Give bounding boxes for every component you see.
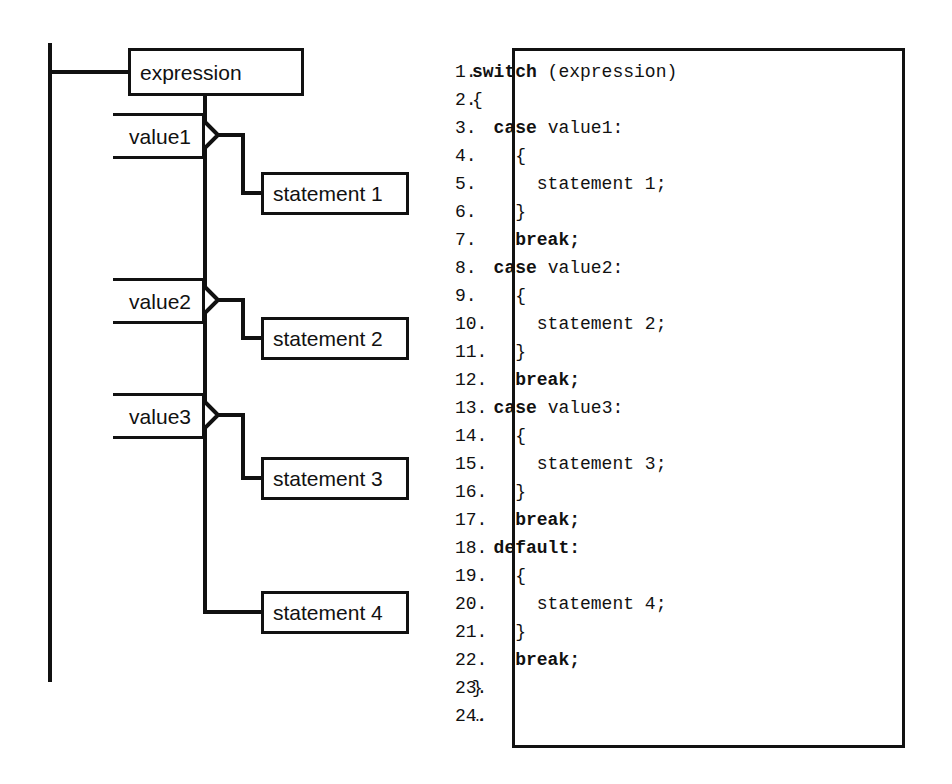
code-source-lines: switch (expression){ case value1: { stat… <box>472 58 677 730</box>
code-indent <box>472 342 515 362</box>
code-text: statement 3; <box>537 454 667 474</box>
code-line: } <box>472 618 677 646</box>
code-indent <box>472 258 494 278</box>
code-keyword: case <box>494 118 537 138</box>
code-text: value1: <box>537 118 623 138</box>
code-keyword: break; <box>515 510 580 530</box>
code-text: … <box>472 706 483 726</box>
statement-box-3: statement 3 <box>261 457 409 500</box>
code-text: value2: <box>537 258 623 278</box>
code-indent <box>472 146 515 166</box>
code-indent <box>472 398 494 418</box>
code-indent <box>472 174 537 194</box>
code-text: } <box>515 342 526 362</box>
code-text: } <box>515 202 526 222</box>
code-indent <box>472 538 494 558</box>
code-line: } <box>472 198 677 226</box>
value-label-1: value1 <box>129 126 191 147</box>
code-keyword: case <box>494 258 537 278</box>
code-indent <box>472 482 515 502</box>
code-indent <box>472 426 515 446</box>
statement-label-1: statement 1 <box>273 183 383 204</box>
code-indent <box>472 594 537 614</box>
code-line: { <box>472 86 677 114</box>
code-keyword: break; <box>515 230 580 250</box>
code-line: statement 2; <box>472 310 677 338</box>
code-indent <box>472 202 515 222</box>
code-indent <box>472 286 515 306</box>
code-text: { <box>515 146 526 166</box>
statement-label-3: statement 3 <box>273 468 383 489</box>
code-text: value3: <box>537 398 623 418</box>
page-root: expression value1 value2 value3 statemen… <box>0 0 952 784</box>
code-text: { <box>515 286 526 306</box>
code-indent <box>472 314 537 334</box>
code-line: break; <box>472 226 677 254</box>
code-line: break; <box>472 506 677 534</box>
code-indent <box>472 622 515 642</box>
statement-box-2: statement 2 <box>261 317 409 360</box>
code-text: statement 2; <box>537 314 667 334</box>
value-label-3: value3 <box>129 406 191 427</box>
code-text: { <box>515 426 526 446</box>
code-line: } <box>472 338 677 366</box>
code-listing: 1.2.3.4.5.6.7.8.9.10.11.12.13.14.15.16.1… <box>455 48 915 750</box>
code-line: statement 1; <box>472 170 677 198</box>
code-line: case value1: <box>472 114 677 142</box>
code-keyword: break; <box>515 370 580 390</box>
code-line: { <box>472 142 677 170</box>
code-keyword: case <box>494 398 537 418</box>
code-indent <box>472 230 515 250</box>
code-text: statement 4; <box>537 594 667 614</box>
statement-label-4: statement 4 <box>273 602 383 623</box>
expression-box: expression <box>128 48 304 96</box>
code-line: { <box>472 422 677 450</box>
value-box-2: value2 <box>113 278 205 324</box>
code-line: { <box>472 282 677 310</box>
code-indent <box>472 370 515 390</box>
code-line: … <box>472 702 677 730</box>
expression-label: expression <box>140 62 242 83</box>
value-box-3: value3 <box>113 393 205 439</box>
statement-box-1: statement 1 <box>261 172 409 215</box>
code-text: } <box>472 678 483 698</box>
code-text: { <box>472 90 483 110</box>
code-line: statement 4; <box>472 590 677 618</box>
code-line: break; <box>472 646 677 674</box>
code-line: } <box>472 674 677 702</box>
code-line: case value2: <box>472 254 677 282</box>
code-indent <box>472 454 537 474</box>
value-box-1: value1 <box>113 113 205 159</box>
statement-box-4: statement 4 <box>261 591 409 634</box>
code-text: } <box>515 622 526 642</box>
code-keyword: break; <box>515 650 580 670</box>
code-line: break; <box>472 366 677 394</box>
code-line: } <box>472 478 677 506</box>
code-line: switch (expression) <box>472 58 677 86</box>
code-text: } <box>515 482 526 502</box>
code-line: case value3: <box>472 394 677 422</box>
code-line: default: <box>472 534 677 562</box>
statement-label-2: statement 2 <box>273 328 383 349</box>
code-indent <box>472 566 515 586</box>
code-line: { <box>472 562 677 590</box>
diagram-connector-lines <box>0 0 460 784</box>
code-text: statement 1; <box>537 174 667 194</box>
code-line: statement 3; <box>472 450 677 478</box>
value-label-2: value2 <box>129 291 191 312</box>
code-keyword: default: <box>494 538 580 558</box>
switch-flow-diagram: expression value1 value2 value3 statemen… <box>0 0 460 784</box>
code-indent <box>472 650 515 670</box>
code-text: (expression) <box>537 62 677 82</box>
code-keyword: switch <box>472 62 537 82</box>
code-text: { <box>515 566 526 586</box>
code-indent <box>472 118 494 138</box>
code-indent <box>472 510 515 530</box>
